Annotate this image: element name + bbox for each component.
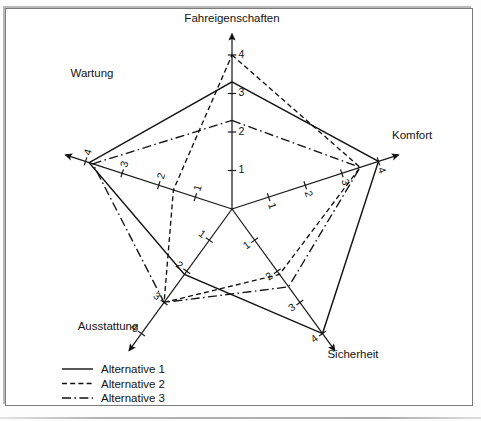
- axis-tick-label-komfort-4: 4: [376, 165, 389, 174]
- legend-label-1: Alternative 1: [101, 363, 165, 375]
- axis-label-wartung: Wartung: [70, 67, 113, 79]
- axis-tick-label-fahreigenschaften-4: 4: [239, 48, 245, 60]
- axis-line-ausstattung: [129, 209, 232, 351]
- axis-tick-ausstattung-2: [183, 269, 190, 274]
- axis-tick-sicherheit-2: [274, 269, 281, 274]
- axis-label-komfort: Komfort: [392, 129, 433, 141]
- axis-tick-label-fahreigenschaften-1: 1: [239, 163, 245, 175]
- axis-tick-sicherheit-1: [251, 238, 258, 243]
- axis-label-sicherheit: Sicherheit: [327, 348, 379, 360]
- axis-labels-group: FahreigenschaftenKomfortSicherheitAussta…: [70, 12, 433, 360]
- page-bottom-edge: [0, 417, 481, 419]
- axis-tick-label-wartung-4: 4: [81, 147, 94, 156]
- axis-tick-label-sicherheit-2: 2: [263, 269, 275, 282]
- axis-tick-label-wartung-3: 3: [117, 159, 130, 168]
- legend-label-3: Alternative 3: [101, 392, 165, 404]
- axis-line-sicherheit: [232, 209, 335, 351]
- legend-label-2: Alternative 2: [101, 378, 165, 390]
- axis-tick-ausstattung-1: [206, 238, 213, 243]
- series-polygon-3: [93, 120, 360, 302]
- axis-tick-label-wartung-1: 1: [191, 183, 204, 192]
- axis-tick-label-wartung-2: 2: [154, 171, 167, 180]
- axis-tick-label-fahreigenschaften-3: 3: [239, 86, 245, 98]
- axis-line-komfort: [232, 155, 399, 209]
- axis-tick-label-sicherheit-4: 4: [308, 332, 320, 345]
- axis-label-fahreigenschaften: Fahreigenschaften: [184, 12, 279, 24]
- series-group: [89, 55, 378, 334]
- page-canvas: 12341234123412341234 FahreigenschaftenKo…: [0, 0, 481, 421]
- axis-tick-ausstattung-4: [138, 331, 145, 336]
- chart-legend: Alternative 1Alternative 2Alternative 3: [62, 363, 165, 404]
- series-polygon-2: [164, 55, 360, 302]
- axis-label-ausstattung: Ausstattung: [78, 320, 139, 332]
- axis-tick-label-fahreigenschaften-2: 2: [239, 125, 245, 137]
- axis-tick-label-komfort-2: 2: [303, 189, 316, 198]
- axis-tick-label-komfort-1: 1: [266, 201, 279, 210]
- axis-tick-label-sicherheit-1: 1: [240, 238, 252, 251]
- axis-tick-sicherheit-3: [296, 300, 303, 305]
- axis-tick-label-sicherheit-3: 3: [286, 300, 298, 313]
- radar-chart: 12341234123412341234 FahreigenschaftenKo…: [0, 0, 481, 421]
